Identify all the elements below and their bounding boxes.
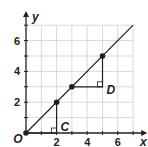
- x-tick-label: 4: [84, 136, 91, 147]
- y-axis-label: y: [31, 10, 40, 24]
- y-tick-label: 4: [14, 65, 21, 77]
- y-tick-label: 6: [14, 35, 20, 47]
- graph: 246246xyOCD: [0, 0, 148, 147]
- x-tick-label: 6: [115, 136, 121, 147]
- data-point: [23, 130, 29, 136]
- data-point: [69, 84, 75, 90]
- data-point: [54, 99, 60, 105]
- x-axis-label: x: [139, 135, 148, 147]
- right-angle-marker-icon: [52, 128, 57, 133]
- triangle-label-d: D: [107, 83, 116, 97]
- y-tick-label: 2: [14, 96, 20, 108]
- proportional-line: [26, 25, 133, 133]
- x-tick-label: 2: [54, 136, 60, 147]
- triangle-label-c: C: [61, 120, 70, 134]
- origin-label: O: [13, 132, 23, 146]
- y-axis-arrow-icon: [23, 11, 29, 17]
- right-angle-marker-icon: [98, 82, 103, 87]
- data-point: [100, 53, 106, 59]
